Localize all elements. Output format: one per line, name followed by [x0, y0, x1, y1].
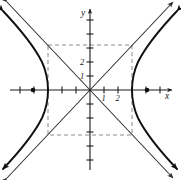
x-tick-label-1: 1: [102, 93, 106, 103]
focus-point-right: [145, 88, 150, 93]
y-tick-label-1: 1: [80, 71, 84, 81]
focus-point-left: [31, 88, 36, 93]
y-axis-label: y: [80, 8, 86, 18]
x-tick-label-2: 2: [116, 93, 121, 103]
hyperbola-figure: 1 2 1 2 y x: [0, 0, 181, 180]
graph-canvas: 1 2 1 2 y x: [0, 0, 181, 180]
x-axis-label: x: [164, 91, 170, 101]
y-tick-label-2: 2: [80, 57, 85, 67]
